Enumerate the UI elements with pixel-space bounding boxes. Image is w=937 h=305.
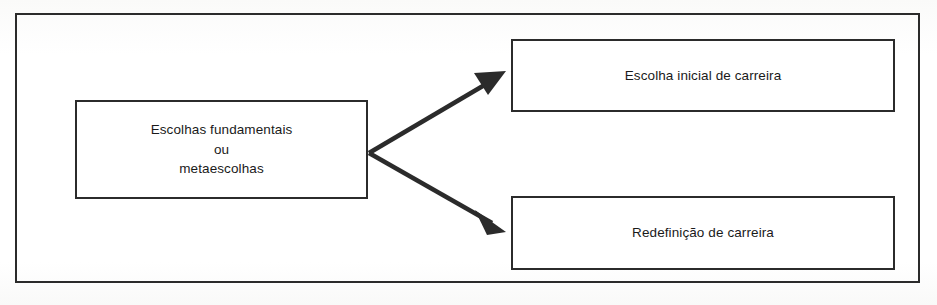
node-escolha-inicial-de-carreira: Escolha inicial de carreira [511,39,895,112]
node-redefinicao-de-carreira-label: Redefinição de carreira [622,223,784,243]
node-redefinicao-de-carreira: Redefinição de carreira [511,196,895,270]
caption-remnant [18,291,438,303]
node-escolha-inicial-de-carreira-label: Escolha inicial de carreira [615,66,792,86]
node-escolhas-fundamentais-label: Escolhas fundamentais ou metaescolhas [141,120,303,179]
figure-canvas: Escolhas fundamentais ou metaescolhas Es… [0,0,937,305]
node-escolhas-fundamentais: Escolhas fundamentais ou metaescolhas [75,100,368,199]
